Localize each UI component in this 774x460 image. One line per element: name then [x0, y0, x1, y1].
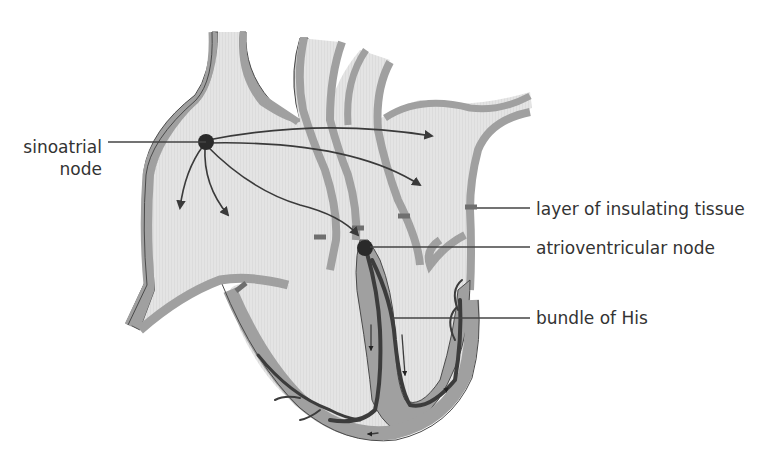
sinoatrial-node-label: sinoatrial node	[23, 136, 102, 180]
atrioventricular-node	[357, 240, 373, 256]
av-node-label: atrioventricular node	[536, 237, 715, 259]
heart-diagram	[0, 0, 774, 460]
bundle-of-his-label: bundle of His	[536, 307, 648, 329]
label-text: node	[23, 158, 102, 180]
label-text: sinoatrial	[23, 136, 102, 158]
insulating-layer-label: layer of insulating tissue	[536, 198, 745, 220]
